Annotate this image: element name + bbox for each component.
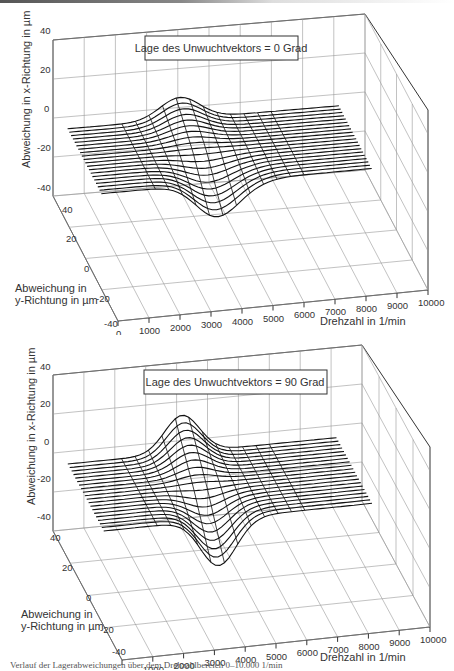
y-axis-label-line1: Abweichung in [21, 608, 93, 620]
chart-bottom: Lage des Unwuchtvektors = 90 Grad 40 20 … [0, 335, 454, 670]
x-tick: 5000 [263, 313, 284, 324]
y-tick: 0 [86, 592, 91, 603]
surface-wireframe [68, 97, 372, 216]
z-tick: 20 [40, 64, 51, 75]
z-axis-label: Abweichung in x-Richtung in µm [25, 348, 37, 505]
y-tick: 40 [62, 204, 73, 215]
legend-box: Lage des Unwuchtvektors = 0 Grad [135, 36, 308, 60]
y-tick: -40 [112, 646, 126, 657]
z-tick-labels: 40 20 0 -20 -40 [37, 25, 51, 193]
x-tick: 0 [116, 328, 121, 335]
x-tick: 1000 [139, 325, 160, 335]
z-axis-label: Abweichung in x-Richtung in µm [20, 11, 32, 168]
z-tick: 40 [40, 25, 51, 36]
surface-wireframe [68, 415, 372, 565]
y-axis-label-line2: y-Richtung in µm [21, 620, 104, 632]
y-tick-labels: 40 20 0 -20 -40 [50, 532, 126, 657]
z-tick: -40 [37, 182, 51, 193]
x-axis-label: Drehzahl in 1/min [320, 315, 406, 327]
x-tick: 8000 [358, 641, 379, 652]
legend-box: Lage des Unwuchtvektors = 90 Grad [144, 370, 327, 394]
x-tick: 9000 [389, 637, 410, 648]
x-tick: 2000 [170, 322, 191, 333]
x-tick: 9000 [387, 300, 408, 311]
z-tick: -40 [37, 511, 51, 522]
legend-text: Lage des Unwuchtvektors = 0 Grad [135, 42, 308, 54]
z-tick: -20 [37, 473, 51, 484]
x-tick: 8000 [356, 303, 377, 314]
x-tick: 4000 [232, 316, 253, 327]
z-tick: 0 [44, 436, 49, 447]
y-tick: 0 [84, 263, 89, 274]
x-tick: 3000 [201, 319, 222, 330]
x-tick: 10000 [418, 297, 444, 308]
y-tick: 40 [50, 532, 61, 543]
z-tick: -20 [37, 142, 51, 153]
x-tick: 6000 [294, 309, 315, 320]
z-tick: 40 [40, 361, 51, 372]
x-tick: 6000 [297, 647, 318, 658]
z-tick: 0 [44, 103, 49, 114]
x-tick: 10000 [420, 634, 446, 645]
y-axis-label-line2: y-Richtung in µm [15, 294, 98, 306]
chart-bottom-svg: Lage des Unwuchtvektors = 90 Grad 40 20 … [0, 335, 454, 670]
figure-caption: Verlauf der Lagerabweichungen über dem D… [10, 660, 450, 670]
z-tick: 20 [40, 398, 51, 409]
chart-top-svg: Lage des Unwuchtvektors = 0 Grad 40 20 0… [0, 0, 454, 335]
y-axis-label-line1: Abweichung in [15, 282, 87, 294]
legend-text: Lage des Unwuchtvektors = 90 Grad [146, 376, 325, 388]
y-tick: 20 [62, 562, 73, 573]
y-tick: 20 [66, 233, 77, 244]
z-tick-labels: 40 20 0 -20 -40 [37, 361, 51, 522]
y-tick: -20 [96, 293, 110, 304]
chart-top: Lage des Unwuchtvektors = 0 Grad 40 20 0… [0, 0, 454, 335]
